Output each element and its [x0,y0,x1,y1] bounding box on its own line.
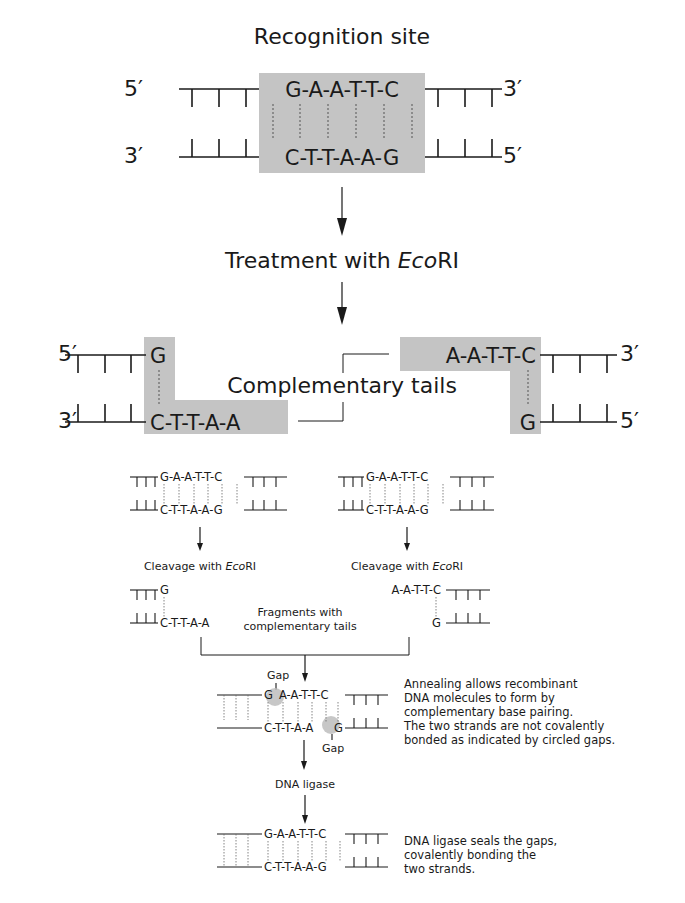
arrow-down-icon [301,740,307,770]
left-small-top-seq: G [160,583,169,597]
right-molecule-small: G-A-A-T-T-C C-T-T-A-A-G [338,470,494,517]
left-fragment-3prime-label: 3′ [58,408,77,433]
fragments-label-line2: complementary tails [243,620,357,633]
recognition-bottom-strand: C-T-T-A-A-G [285,146,399,170]
gap-bottom-label: Gap [322,742,344,755]
dna-ligase-label: DNA ligase [275,778,335,791]
right-molecule-top-seq: G-A-A-T-T-C [366,470,428,484]
recognition-top-strand: G-A-A-T-T-C [285,78,399,102]
left-fragment-5prime-label: 5′ [58,341,77,366]
left-molecule-small: G-A-A-T-T-C C-T-T-A-A-G [130,470,287,517]
right-fragment-3prime-label: 3′ [620,341,639,366]
bottom-right-5prime-label: 5′ [503,143,522,168]
left-fragment-bottom-seq: C-T-T-A-A [150,411,241,435]
recognition-site-section: Recognition site 5′ 3′ 3′ 5′ G-A-A-T-T-C… [124,24,522,173]
right-molecule-bottom-seq: C-T-T-A-A-G [366,503,429,517]
bottom-left-3prime-label: 3′ [124,143,143,168]
gap-top-label: Gap [267,669,289,682]
fragments-label-line1: Fragments with [257,606,342,619]
join-bracket [201,637,409,682]
annealed-bottom-last: G [334,721,343,735]
annealed-top-rest: A-A-T-T-C [279,688,328,702]
right-fragment-bottom-seq: G [520,411,536,435]
arrow-down-icon [197,527,203,551]
annealed-top-first: G [264,688,273,702]
annealing-note: Annealing allows recombinant DNA molecul… [403,677,615,747]
right-small-bottom-seq: G [432,616,441,630]
cleavage-label-left: Cleavage with EcoRI [144,560,256,573]
note-line: covalently bonding the [404,848,536,862]
note-line: complementary base pairing. [404,705,573,719]
left-fragment-top-seq: G [150,344,166,368]
complementary-tails-label: Complementary tails [227,373,457,398]
right-fragment-top-seq: A-A-T-T-C [446,344,536,368]
top-right-3prime-label: 3′ [503,76,522,101]
arrow-down-icon [337,187,347,236]
arrow-down-icon [404,527,410,551]
treatment-label: Treatment with EcoRI [224,248,459,273]
arrow-down-icon [302,795,308,824]
arrow-down-icon [337,282,347,325]
cleavage-label-right: Cleavage with EcoRI [351,560,463,573]
annealed-molecule: Gap G A-A-T-T-C C-T-T-A-A G Gap [217,669,388,755]
right-fragment-5prime-label: 5′ [620,408,639,433]
note-line: The two strands are not covalently [403,719,604,733]
left-small-bottom-seq: C-T-T-A-A [160,616,210,630]
recognition-site-title: Recognition site [254,24,430,49]
ligation-note: DNA ligase seals the gaps, covalently bo… [404,834,557,876]
note-line: bonded as indicated by circled gaps. [404,733,615,747]
note-line: DNA molecules to form by [404,691,555,705]
left-molecule-bottom-seq: C-T-T-A-A-G [160,503,223,517]
ligated-top-seq: G-A-A-T-T-C [264,827,326,841]
right-fragment-small: A-A-T-T-C G [392,583,490,630]
note-line: two strands. [404,862,475,876]
top-left-5prime-label: 5′ [124,76,143,101]
right-small-top-seq: A-A-T-T-C [392,583,441,597]
ecori-diagram: Recognition site 5′ 3′ 3′ 5′ G-A-A-T-T-C… [0,0,685,903]
note-line: Annealing allows recombinant [404,677,578,691]
left-fragment-small: G C-T-T-A-A [130,583,210,630]
left-molecule-top-seq: G-A-A-T-T-C [160,470,222,484]
ligated-molecule: G-A-A-T-T-C C-T-T-A-A-G [217,827,388,874]
ligated-bottom-seq: C-T-T-A-A-G [264,860,327,874]
note-line: DNA ligase seals the gaps, [404,834,557,848]
annealed-bottom-main: C-T-T-A-A [264,721,314,735]
